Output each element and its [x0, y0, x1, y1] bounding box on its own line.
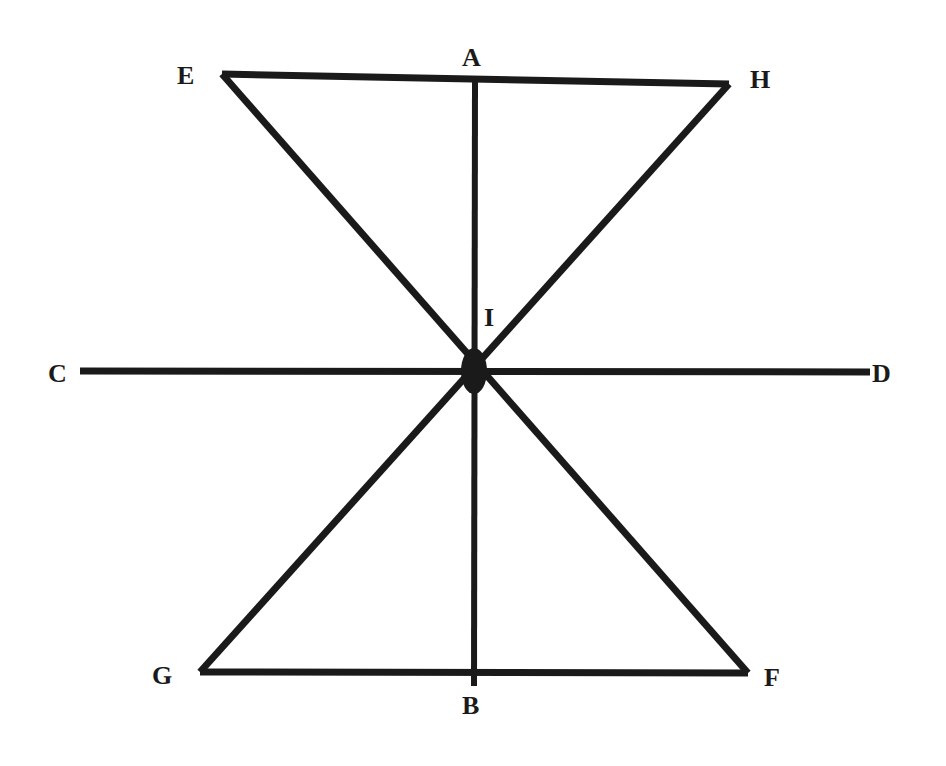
label-G: G	[152, 661, 172, 690]
segment-GF	[200, 672, 748, 673]
label-H: H	[750, 65, 770, 94]
label-I: I	[484, 303, 494, 332]
label-D: D	[872, 359, 891, 388]
label-F: F	[764, 663, 780, 692]
label-A: A	[462, 43, 481, 72]
label-B: B	[462, 691, 479, 720]
label-E: E	[177, 61, 194, 90]
label-C: C	[48, 359, 67, 388]
center-point-I	[461, 348, 487, 394]
diagram-canvas: A E H I C D G F B	[0, 0, 946, 766]
